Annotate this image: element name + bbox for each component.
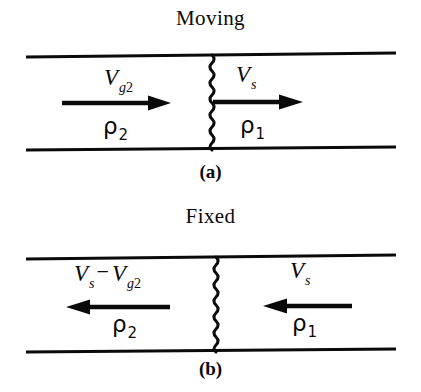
density-symbol: ρ <box>292 310 307 336</box>
density-symbol: ρ <box>103 113 118 139</box>
velocity-symbol-second: V <box>112 261 126 286</box>
velocity-label-left-a: Vg2 <box>104 66 132 89</box>
velocity-subscript-second: g <box>127 276 134 291</box>
velocity-arrow-left-b-head <box>66 300 90 315</box>
density-subscript: 2 <box>119 126 129 144</box>
duct-wall-top-b <box>26 255 396 259</box>
density-label-right-a: ρ1 <box>240 114 264 137</box>
velocity-label-right-a: Vs <box>236 63 256 86</box>
velocity-symbol: V <box>104 65 118 90</box>
density-subscript: 2 <box>128 324 138 342</box>
velocity-subscript-number: 2 <box>126 80 133 95</box>
panel-moving-frame: Moving Vg2 Vs ρ2 ρ1 (a) <box>0 0 421 196</box>
velocity-symbol-first: V <box>74 261 88 286</box>
shock-front-b <box>214 257 218 352</box>
velocity-arrow-right-a-head <box>279 95 303 110</box>
velocity-subscript: s <box>305 273 310 288</box>
shock-wave-figure: Moving Vg2 Vs ρ2 ρ1 (a) <box>0 0 421 392</box>
density-label-left-a: ρ2 <box>103 115 127 138</box>
panel-b-caption: (b) <box>0 359 421 378</box>
density-label-left-b: ρ2 <box>112 313 136 336</box>
velocity-subscript: g <box>119 80 126 95</box>
density-label-right-b: ρ1 <box>292 312 316 335</box>
panel-fixed-frame: Fixed Vs−Vg2 Vs ρ2 ρ1 (b) <box>0 196 421 392</box>
velocity-subscript-second-number: 2 <box>134 276 141 291</box>
velocity-label-right-b: Vs <box>290 259 310 282</box>
panel-a-caption: (a) <box>0 162 421 181</box>
velocity-symbol: V <box>290 258 304 283</box>
velocity-label-left-b: Vs−Vg2 <box>74 262 140 285</box>
density-subscript: 1 <box>308 323 318 341</box>
minus-operator: − <box>94 259 112 284</box>
velocity-arrow-right-b-head <box>263 299 287 314</box>
density-symbol: ρ <box>240 112 255 138</box>
density-subscript: 1 <box>256 125 266 143</box>
duct-wall-bottom-b <box>26 349 396 352</box>
velocity-arrow-left-a-head <box>148 96 171 111</box>
velocity-symbol: V <box>236 62 250 87</box>
velocity-subscript: s <box>251 77 256 92</box>
density-symbol: ρ <box>112 311 127 337</box>
